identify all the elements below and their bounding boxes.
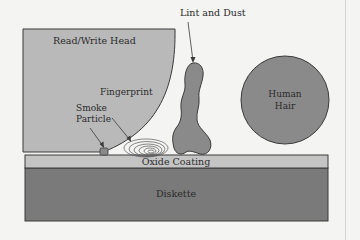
oxide-coating-label: Oxide Coating [142,156,211,167]
fingerprint-shape [124,139,168,157]
diskette-label: Diskette [156,188,197,199]
human-hair-label-line2: Hair [275,101,296,111]
lint-and-dust-shape [173,63,211,154]
fingerprint-label: Fingerprint [100,87,153,97]
smoke-label-line2: Particle [76,114,111,124]
lint-pointer-line [188,22,193,61]
lint-pointer-arrowhead [191,57,196,63]
diagram-stage: Read/Write Head Lint and Dust Fingerprin… [0,0,360,240]
human-hair-shape [241,56,329,144]
smoke-particle-shape [100,148,108,155]
smoke-label-line1: Smoke [76,103,107,113]
contaminants-diagram: Read/Write Head Lint and Dust Fingerprin… [0,0,360,240]
read-write-head-label: Read/Write Head [53,35,136,46]
lint-and-dust-label: Lint and Dust [180,7,246,18]
human-hair-label-line1: Human [268,89,302,99]
